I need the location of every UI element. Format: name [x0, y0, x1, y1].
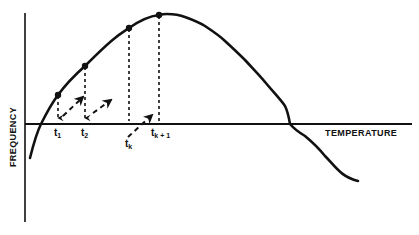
tick-label-tk-sub: k	[128, 143, 132, 150]
frequency-curve	[30, 14, 358, 181]
curve-marker-t1	[55, 92, 61, 98]
plot-canvas	[0, 0, 419, 235]
x-axis-label: TEMPERATURE	[325, 128, 397, 138]
tick-label-t1: t1	[54, 127, 61, 138]
tick-label-t1-sub: 1	[57, 132, 61, 139]
curve-marker-tk1	[156, 12, 162, 18]
curve-marker-tk	[126, 25, 132, 31]
tick-label-tk: tk	[125, 138, 132, 149]
transition-arrow-t2-next	[93, 100, 111, 113]
transition-arrow-t1-t2	[63, 97, 83, 116]
tick-label-tk1-sub: k + 1	[154, 132, 170, 139]
tick-label-t2: t2	[81, 127, 88, 138]
frequency-temperature-figure: FREQUENCY TEMPERATURE t1 t2 tk tk + 1	[0, 0, 419, 235]
tick-label-t2-sub: 2	[84, 132, 88, 139]
curve-marker-t2	[82, 63, 88, 69]
transition-arrow-tk-tk1	[128, 115, 152, 137]
y-axis-label: FREQUENCY	[8, 97, 18, 177]
tick-label-tk1: tk + 1	[151, 127, 170, 138]
